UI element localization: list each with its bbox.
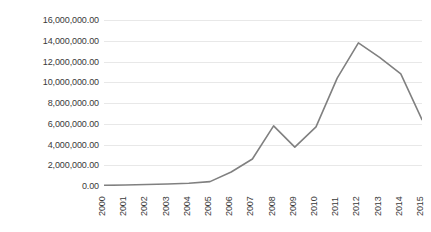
x-axis-tick-label: 2012 [352, 176, 361, 216]
x-axis-tick-label: 2007 [246, 176, 255, 216]
x-axis: 2000200120022003200420052006200720082009… [104, 190, 422, 232]
y-axis: 0.002,000,000.004,000,000.006,000,000.00… [0, 20, 99, 186]
y-axis-tick-label: 4,000,000.00 [0, 140, 99, 149]
y-axis-tick-label: 16,000,000.00 [0, 16, 99, 25]
y-axis-tick-label: 12,000,000.00 [0, 57, 99, 66]
x-axis-tick-label: 2008 [268, 176, 277, 216]
y-axis-tick-label: 8,000,000.00 [0, 99, 99, 108]
data-series-layer [104, 20, 422, 186]
line-chart: 0.002,000,000.004,000,000.006,000,000.00… [0, 0, 431, 232]
x-axis-tick-label: 2003 [162, 176, 171, 216]
y-axis-tick-label: 10,000,000.00 [0, 78, 99, 87]
x-axis-tick-label: 2004 [183, 176, 192, 216]
x-axis-tick-label: 2011 [331, 176, 340, 216]
x-axis-tick-label: 2013 [374, 176, 383, 216]
x-axis-tick-label: 2001 [119, 176, 128, 216]
y-axis-tick-label: 6,000,000.00 [0, 119, 99, 128]
series-line [104, 43, 422, 186]
y-axis-tick-label: 14,000,000.00 [0, 36, 99, 45]
x-axis-tick-label: 2009 [289, 176, 298, 216]
x-axis-tick-label: 2000 [98, 176, 107, 216]
y-axis-tick-label: 0.00 [0, 182, 99, 191]
x-axis-tick-label: 2002 [140, 176, 149, 216]
x-axis-tick-label: 2015 [416, 176, 425, 216]
plot-area [104, 20, 422, 186]
x-axis-tick-label: 2006 [225, 176, 234, 216]
x-axis-tick-label: 2005 [204, 176, 213, 216]
x-axis-tick-label: 2014 [395, 176, 404, 216]
x-axis-tick-label: 2010 [310, 176, 319, 216]
y-axis-tick-label: 2,000,000.00 [0, 161, 99, 170]
